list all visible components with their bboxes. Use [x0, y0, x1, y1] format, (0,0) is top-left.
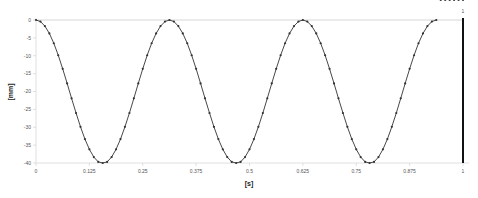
data-point: [395, 112, 397, 114]
data-point: [142, 68, 144, 70]
y-tick-label: 0: [28, 17, 31, 23]
data-point: [369, 162, 371, 164]
series-group: [35, 0, 464, 164]
data-point: [404, 82, 406, 84]
data-point: [84, 138, 86, 140]
y-tick-label: -20: [24, 88, 31, 94]
data-point: [342, 112, 344, 114]
data-point: [146, 54, 148, 56]
data-point: [435, 19, 437, 21]
x-tick-label: 0.875: [403, 168, 416, 174]
data-point: [137, 82, 139, 84]
data-point: [186, 42, 188, 44]
data-point: [124, 126, 126, 128]
data-point: [155, 32, 157, 34]
data-point: [409, 68, 411, 70]
data-point: [306, 20, 308, 22]
chart: 0-5-10-15-20-25-30-35-4000.1250.250.3750…: [0, 0, 478, 198]
data-point: [70, 97, 72, 99]
data-point: [271, 82, 273, 84]
data-point: [426, 25, 428, 27]
x-tick-label: 0.75: [351, 168, 361, 174]
data-point: [297, 20, 299, 22]
x-tick-label: 0.125: [83, 168, 96, 174]
data-point: [382, 148, 384, 150]
x-tick-label: 0: [35, 168, 38, 174]
data-point: [355, 148, 357, 150]
data-point: [151, 42, 153, 44]
data-point: [204, 97, 206, 99]
data-point: [199, 82, 201, 84]
cursor-group[interactable]: 1: [462, 8, 465, 163]
data-point: [111, 156, 113, 158]
data-point: [417, 42, 419, 44]
data-point: [457, 0, 459, 1]
data-point: [217, 138, 219, 140]
data-point: [386, 138, 388, 140]
y-tick-label: -30: [24, 124, 31, 130]
data-point: [79, 126, 81, 128]
data-point: [48, 32, 50, 34]
data-point: [213, 126, 215, 128]
data-point: [88, 148, 90, 150]
data-point: [253, 138, 255, 140]
data-point: [195, 68, 197, 70]
data-point: [337, 97, 339, 99]
data-point: [39, 20, 41, 22]
data-point: [293, 25, 295, 27]
data-point: [168, 19, 170, 21]
data-point: [177, 25, 179, 27]
data-point: [182, 32, 184, 34]
data-point: [288, 32, 290, 34]
data-point: [364, 161, 366, 163]
data-point: [226, 156, 228, 158]
data-point: [413, 54, 415, 56]
data-point: [373, 161, 375, 163]
data-point: [240, 161, 242, 163]
data-point: [231, 161, 233, 163]
x-tick-label: 0.625: [297, 168, 310, 174]
y-tick-label: -15: [24, 70, 31, 76]
data-point: [164, 20, 166, 22]
data-point: [302, 19, 304, 21]
data-point: [244, 156, 246, 158]
data-point: [133, 97, 135, 99]
data-point: [208, 112, 210, 114]
y-tick-label: -35: [24, 142, 31, 148]
data-point: [262, 112, 264, 114]
data-point: [284, 42, 286, 44]
data-point: [400, 97, 402, 99]
data-point: [106, 161, 108, 163]
data-point: [449, 0, 451, 1]
data-point: [53, 42, 55, 44]
data-point: [346, 126, 348, 128]
data-point: [222, 148, 224, 150]
data-point: [311, 25, 313, 27]
data-point: [280, 54, 282, 56]
data-point: [44, 25, 46, 27]
y-axis-title: [mm]: [7, 83, 15, 100]
data-point: [315, 32, 317, 34]
data-point: [93, 156, 95, 158]
data-point: [75, 112, 77, 114]
x-axis-title: [s]: [245, 180, 254, 188]
data-point: [115, 148, 117, 150]
data-point: [444, 0, 446, 1]
data-point: [97, 161, 99, 163]
data-point: [422, 32, 424, 34]
y-tick-label: -5: [27, 35, 32, 41]
data-point: [324, 54, 326, 56]
data-point: [266, 97, 268, 99]
y-tick-label: -10: [24, 53, 31, 59]
data-point: [248, 148, 250, 150]
axes: 0-5-10-15-20-25-30-35-4000.1250.250.3750…: [24, 17, 469, 174]
data-point: [431, 20, 433, 22]
data-point: [235, 162, 237, 164]
data-point: [62, 68, 64, 70]
data-point: [257, 126, 259, 128]
data-point: [57, 54, 59, 56]
data-point: [173, 20, 175, 22]
data-point: [462, 0, 464, 1]
data-point: [351, 138, 353, 140]
series-line-displacement: [36, 20, 436, 163]
